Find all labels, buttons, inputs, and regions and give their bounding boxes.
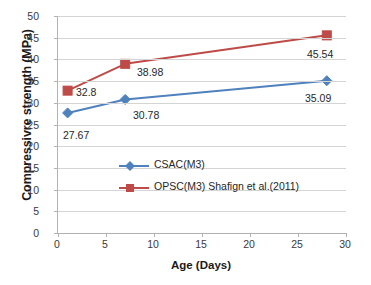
x-tick-mark-15 [202, 233, 203, 237]
data-label-opsc-28day: 45.54 [307, 48, 333, 60]
x-tick-mark-25 [298, 233, 299, 237]
y-tick-mark-10 [54, 190, 58, 191]
diamond-marker-icon [125, 161, 135, 171]
y-tick-label-15: 15 [15, 162, 39, 174]
x-tick-mark-30 [346, 233, 347, 237]
square-marker-icon [63, 86, 72, 95]
data-label-csac-28day: 35.09 [305, 92, 331, 104]
y-tick-mark-15 [54, 168, 58, 169]
x-tick-label-25: 25 [282, 238, 312, 250]
square-marker-icon [121, 59, 130, 68]
x-tick-mark-20 [250, 233, 251, 237]
y-tick-label-10: 10 [15, 184, 39, 196]
series-line-2 [68, 35, 327, 90]
x-tick-label-5: 5 [90, 238, 120, 250]
x-tick-label-20: 20 [234, 238, 264, 250]
square-marker-icon [126, 184, 134, 192]
series-line-1 [68, 81, 327, 113]
y-tick-mark-5 [54, 211, 58, 212]
diamond-marker-icon [63, 108, 73, 118]
y-tick-label-45: 45 [15, 32, 39, 44]
y-tick-label-5: 5 [15, 205, 39, 217]
data-label-csac-7day: 30.78 [133, 109, 159, 121]
y-tick-mark-40 [54, 59, 58, 60]
gridline-y-25 [58, 125, 346, 126]
y-tick-label-30: 30 [15, 97, 39, 109]
gridline-y-35 [58, 81, 346, 82]
data-label-opsc-1day: 32.8 [76, 86, 96, 98]
y-tick-label-50: 50 [15, 10, 39, 22]
x-tick-label-15: 15 [186, 238, 216, 250]
x-tick-label-10: 10 [138, 238, 168, 250]
gridline-y-5 [58, 211, 346, 212]
gridline-y-30 [58, 103, 346, 104]
y-tick-mark-45 [54, 38, 58, 39]
gridline-y-50 [58, 16, 346, 17]
x-tick-label-30: 30 [330, 238, 360, 250]
chart-container: Compressivre strength (MPa) 27.67 30.78 … [0, 0, 371, 285]
gridline-y-40 [58, 59, 346, 60]
y-tick-label-40: 40 [15, 53, 39, 65]
x-tick-mark-5 [106, 233, 107, 237]
gridline-y-45 [58, 38, 346, 39]
legend-label-csac: CSAC(M3) [154, 158, 205, 170]
plot-area [57, 16, 346, 233]
x-tick-label-0: 0 [42, 238, 72, 250]
y-tick-label-35: 35 [15, 75, 39, 87]
y-tick-mark-25 [54, 125, 58, 126]
y-tick-label-0: 0 [15, 227, 39, 239]
y-tick-mark-30 [54, 103, 58, 104]
y-tick-label-25: 25 [15, 119, 39, 131]
gridline-y-20 [58, 146, 346, 147]
x-tick-mark-0 [58, 233, 59, 237]
data-label-opsc-7day: 38.98 [137, 66, 163, 78]
x-axis-title: Age (Days) [57, 259, 345, 271]
x-tick-mark-10 [154, 233, 155, 237]
legend-item-csac[interactable]: CSAC(M3) [119, 155, 345, 177]
y-tick-mark-35 [54, 81, 58, 82]
y-tick-mark-50 [54, 16, 58, 17]
y-tick-label-20: 20 [15, 140, 39, 152]
legend-item-opsc[interactable]: OPSC(M3) Shafign et al.(2011) [119, 177, 345, 199]
legend: CSAC(M3) OPSC(M3) Shafign et al.(2011) [119, 155, 345, 199]
y-tick-mark-20 [54, 146, 58, 147]
data-label-csac-1day: 27.67 [63, 129, 89, 141]
legend-key-opsc [119, 187, 149, 189]
legend-key-csac [119, 165, 149, 167]
legend-label-opsc: OPSC(M3) Shafign et al.(2011) [154, 180, 299, 192]
